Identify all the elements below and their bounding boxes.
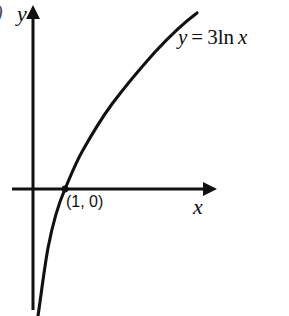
math-figure-logarithm-graph: ) y x y=3lnx (1, 0)	[0, 0, 289, 316]
x-intercept-coordinate-label: (1, 0)	[66, 194, 103, 210]
y-axis-label: y	[17, 3, 27, 25]
equation-lhs: y	[178, 25, 187, 49]
x-axis-label: x	[193, 196, 203, 218]
y-axis-arrowhead	[26, 5, 40, 19]
x-axis-arrowhead	[203, 182, 217, 196]
equation-rhs-coefficient-ln: 3ln	[207, 25, 234, 49]
curve-equation-label: y=3lnx	[178, 27, 247, 48]
cropped-edge-glyph: )	[0, 2, 3, 22]
equation-variable: x	[238, 25, 247, 49]
curve-y-equals-3lnx	[38, 13, 197, 316]
equation-equals-sign: =	[191, 25, 203, 49]
x-intercept-point-marker	[62, 186, 69, 193]
